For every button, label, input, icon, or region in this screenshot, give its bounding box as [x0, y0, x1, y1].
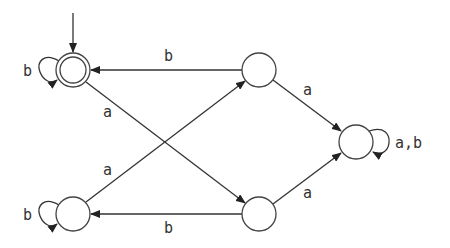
label-q3-q4: a — [303, 184, 312, 202]
edge-q2-q1 — [86, 81, 245, 202]
label-q1-q4: a — [303, 81, 312, 99]
label-q2-loop: b — [23, 206, 32, 224]
automaton-diagram: b b a a b b a a a,b — [0, 0, 450, 248]
label-q1-q0: b — [164, 47, 173, 65]
label-q4-loop: a,b — [395, 134, 422, 152]
label-q0-loop: b — [23, 62, 32, 80]
state-q3 — [242, 197, 276, 231]
label-q3-q2: b — [164, 219, 173, 237]
state-q4 — [339, 125, 373, 159]
edge-q0-q3 — [86, 82, 245, 203]
state-q1 — [242, 53, 276, 87]
state-q2 — [56, 197, 90, 231]
label-q0-q3: a — [103, 103, 112, 121]
label-q2-q1: a — [103, 161, 112, 179]
state-q0 — [56, 53, 90, 87]
